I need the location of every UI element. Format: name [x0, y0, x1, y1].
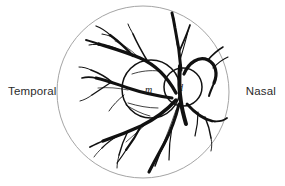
vessel-temporal-main-tip: [82, 77, 96, 78]
disc-letter-label: d: [178, 83, 183, 93]
fundus-figure: Temporal Nasal m d: [0, 0, 285, 186]
macula-letter-label: m: [145, 85, 152, 95]
temporal-label: Temporal: [8, 86, 57, 98]
nasal-label: Nasal: [246, 86, 276, 98]
